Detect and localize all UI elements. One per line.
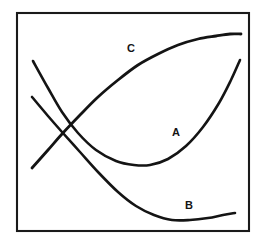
curve-c	[32, 34, 241, 168]
curve-a	[33, 60, 240, 166]
curves-group	[32, 34, 241, 221]
curve-diagram: ABC	[0, 0, 262, 244]
curve-label-c: C	[127, 42, 135, 54]
figure-container: ABC	[0, 0, 262, 244]
curve-label-b: B	[185, 199, 193, 211]
curve-label-a: A	[172, 126, 180, 138]
curve-b	[32, 97, 235, 220]
